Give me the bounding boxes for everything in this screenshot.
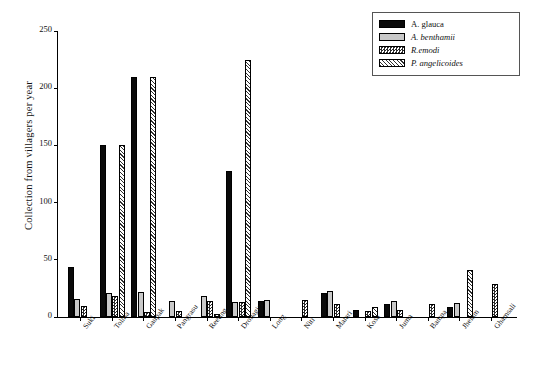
y-tick-mark (54, 317, 58, 318)
legend-item: R.emodi (379, 44, 513, 56)
legend-label: R.emodi (411, 45, 439, 55)
bar (239, 302, 245, 317)
bar (397, 310, 403, 317)
x-tick-mark (207, 317, 208, 321)
y-tick-mark (54, 145, 58, 146)
bar (492, 284, 498, 317)
legend-swatch-diagonal-hatch (379, 59, 405, 67)
y-tick-mark (54, 259, 58, 260)
x-tick-mark (333, 317, 334, 321)
bar (81, 306, 87, 317)
y-tick-mark (54, 202, 58, 203)
bar (226, 171, 232, 317)
legend-item: A. glauca (379, 18, 513, 30)
legend-swatch-solid-lightgray (379, 33, 405, 41)
chart-legend: A. glaucaA. benthamiiR.emodiP. angelicoi… (372, 12, 520, 76)
bar (112, 296, 118, 317)
bar (68, 267, 74, 317)
bar (429, 304, 435, 317)
x-tick-label: Niti (302, 315, 317, 330)
bar (454, 303, 460, 317)
bar (232, 302, 238, 317)
x-tick-mark (365, 317, 366, 321)
bar (321, 293, 327, 317)
bar (201, 296, 207, 317)
bar (100, 145, 106, 317)
x-tick-mark (428, 317, 429, 321)
y-tick-label: 200 (39, 81, 52, 91)
legend-swatch-checkered-dark (379, 46, 405, 54)
bar (207, 301, 213, 317)
bar (384, 304, 390, 317)
bar (74, 299, 80, 317)
y-tick-mark (54, 31, 58, 32)
x-tick-mark (80, 317, 81, 321)
x-tick-label: Gaupak (144, 306, 166, 331)
legend-swatch-solid-black (379, 20, 405, 28)
x-tick-mark (491, 317, 492, 321)
bar (119, 145, 125, 317)
x-tick-mark (112, 317, 113, 321)
bar (150, 77, 156, 317)
bar (138, 292, 144, 317)
y-tick-mark (54, 88, 58, 89)
bar (391, 301, 397, 317)
bar (327, 291, 333, 317)
x-tick-label: Long (270, 312, 287, 330)
bar (131, 77, 137, 317)
legend-label: P. angelicoides (411, 58, 463, 68)
x-tick-mark (143, 317, 144, 321)
bar-chart-figure: Collection from villagers per year 05010… (0, 0, 535, 370)
x-tick-mark (175, 317, 176, 321)
bar (334, 304, 340, 317)
y-axis-title: Collection from villagers per year (23, 46, 34, 266)
x-tick-label: Jhelam (460, 308, 481, 331)
legend-item: A. benthamii (379, 31, 513, 43)
legend-label: A. benthamii (411, 32, 455, 42)
bar (302, 300, 308, 317)
x-tick-mark (301, 317, 302, 321)
bar (169, 301, 175, 317)
x-tick-mark (238, 317, 239, 321)
x-tick-mark (396, 317, 397, 321)
x-tick-mark (270, 317, 271, 321)
bar (264, 300, 270, 317)
bar (447, 307, 453, 317)
y-tick-label: 250 (39, 24, 52, 34)
x-tick-mark (459, 317, 460, 321)
legend-label: A. glauca (411, 19, 444, 29)
y-tick-label: 100 (39, 196, 52, 206)
bar (106, 293, 112, 317)
legend-item: P. angelicoides (379, 57, 513, 69)
y-tick-label: 50 (44, 253, 53, 263)
y-tick-label: 0 (48, 310, 52, 320)
y-tick-label: 150 (39, 138, 52, 148)
bar (245, 60, 251, 317)
